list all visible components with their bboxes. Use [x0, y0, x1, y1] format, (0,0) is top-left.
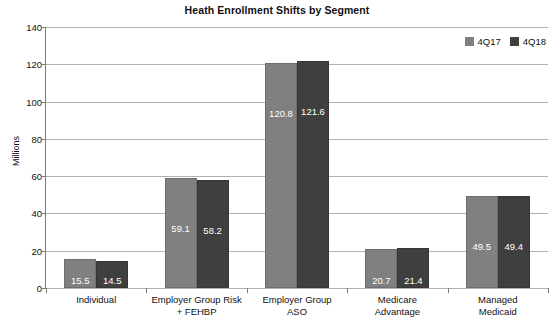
bar-chart: Heath Enrollment Shifts by Segment 4Q17 …	[0, 0, 554, 330]
x-tick-mark	[448, 288, 449, 293]
x-axis-label: Employer GroupASO	[247, 294, 347, 317]
bar[interactable]: 58.2	[197, 180, 229, 289]
y-tick-mark-60	[41, 176, 46, 177]
bar[interactable]: 59.1	[165, 178, 197, 288]
x-tick-mark	[548, 288, 549, 293]
x-axis-label: Employer Group Risk+ FEHBP	[146, 294, 246, 317]
y-tick-mark-100	[41, 102, 46, 103]
bar-value-label: 14.5	[97, 275, 127, 286]
x-axis-label-line: Employer Group	[247, 294, 347, 306]
bar-value-label: 49.4	[499, 241, 529, 252]
bar-value-label: 49.5	[467, 241, 497, 252]
bar[interactable]: 120.8	[265, 63, 297, 288]
y-tick-mark-120	[41, 64, 46, 65]
x-axis-category-labels: IndividualEmployer Group Risk+ FEHBPEmpl…	[46, 294, 548, 328]
x-axis-label-line: Managed	[448, 294, 548, 306]
x-tick-mark	[247, 288, 248, 293]
x-tick-mark	[146, 288, 147, 293]
y-tick-label-120: 120	[26, 59, 42, 70]
bar-group: 120.8121.6	[265, 27, 329, 288]
y-tick-mark-20	[41, 251, 46, 252]
bar-group: 15.514.5	[64, 27, 128, 288]
x-axis-label-line: Medicaid	[448, 306, 548, 318]
x-axis-label-line: ASO	[247, 306, 347, 318]
y-tick-label-100: 100	[26, 96, 42, 107]
chart-title: Heath Enrollment Shifts by Segment	[0, 4, 554, 16]
bar-group: 20.721.4	[365, 27, 429, 288]
bar[interactable]: 20.7	[365, 249, 397, 288]
bar[interactable]: 121.6	[297, 61, 329, 288]
bar[interactable]: 15.5	[64, 259, 96, 288]
x-axis-label: MedicareAdvantage	[347, 294, 447, 317]
bar[interactable]: 21.4	[397, 248, 429, 288]
y-axis-tick-labels: 140120100806040200	[0, 27, 42, 288]
bar[interactable]: 14.5	[96, 261, 128, 288]
y-tick-label-140: 140	[26, 22, 42, 33]
bar-value-label: 20.7	[366, 275, 396, 286]
x-axis-label: Individual	[46, 294, 146, 306]
x-tick-mark	[46, 288, 47, 293]
x-axis-label-line: Individual	[46, 294, 146, 306]
bar[interactable]: 49.5	[466, 196, 498, 288]
plot-area: 15.514.559.158.2120.8121.620.721.449.549…	[46, 27, 548, 288]
y-axis-line	[45, 27, 46, 289]
bar-value-label: 21.4	[398, 275, 428, 286]
bar-value-label: 58.2	[198, 225, 228, 236]
bar-value-label: 121.6	[298, 106, 328, 117]
bar-value-label: 15.5	[65, 275, 95, 286]
x-axis-label-line: + FEHBP	[146, 306, 246, 318]
x-axis-label-line: Employer Group Risk	[146, 294, 246, 306]
bar[interactable]: 49.4	[498, 196, 530, 288]
x-tick-mark	[347, 288, 348, 293]
x-axis-label-line: Advantage	[347, 306, 447, 318]
bar-value-label: 120.8	[266, 108, 296, 119]
x-axis-label: ManagedMedicaid	[448, 294, 548, 317]
bar-value-label: 59.1	[166, 223, 196, 234]
bar-group: 49.549.4	[466, 27, 530, 288]
y-tick-mark-140	[41, 27, 46, 28]
x-axis-label-line: Medicare	[347, 294, 447, 306]
y-tick-mark-40	[41, 213, 46, 214]
bar-group: 59.158.2	[165, 27, 229, 288]
y-tick-mark-80	[41, 139, 46, 140]
gridline-0	[46, 288, 548, 289]
